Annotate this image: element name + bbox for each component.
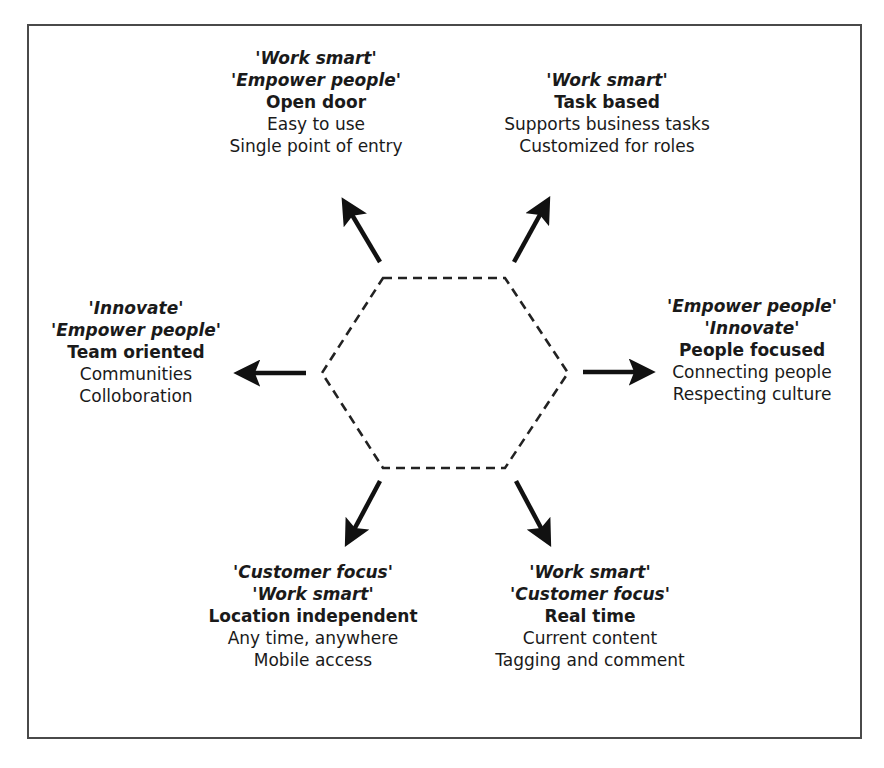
node-title: Real time <box>495 605 684 627</box>
node-value: 'Innovate' <box>51 297 221 319</box>
node-description: Communities <box>51 363 221 385</box>
arrow-up-left-icon <box>345 203 380 262</box>
arrow-up-right-icon <box>514 202 547 262</box>
node-title: People focused <box>667 339 837 361</box>
node-team-oriented: 'Innovate' 'Empower people' Team oriente… <box>51 297 221 407</box>
node-description: Connecting people <box>667 361 837 383</box>
node-value: 'Customer focus' <box>495 583 684 605</box>
node-title: Location independent <box>208 605 417 627</box>
node-value: 'Work smart' <box>495 561 684 583</box>
node-value: 'Work smart' <box>229 47 402 69</box>
node-value: 'Empower people' <box>229 69 402 91</box>
node-value: 'Empower people' <box>667 295 837 317</box>
node-task-based: 'Work smart' Task based Supports busines… <box>504 69 710 157</box>
arrow-down-right-icon <box>516 481 548 541</box>
node-description: Colloboration <box>51 385 221 407</box>
node-value: 'Empower people' <box>51 319 221 341</box>
node-value: 'Work smart' <box>504 69 710 91</box>
node-description: Supports business tasks <box>504 113 710 135</box>
node-real-time: 'Work smart' 'Customer focus' Real time … <box>495 561 684 671</box>
node-value: 'Customer focus' <box>208 561 417 583</box>
node-title: Task based <box>504 91 710 113</box>
node-value: 'Innovate' <box>667 317 837 339</box>
node-title: Open door <box>229 91 402 113</box>
node-title: Team oriented <box>51 341 221 363</box>
node-description: Mobile access <box>208 649 417 671</box>
node-description: Easy to use <box>229 113 402 135</box>
node-value: 'Work smart' <box>208 583 417 605</box>
node-description: Any time, anywhere <box>208 627 417 649</box>
node-open-door: 'Work smart' 'Empower people' Open door … <box>229 47 402 157</box>
node-description: Customized for roles <box>504 135 710 157</box>
node-location-independent: 'Customer focus' 'Work smart' Location i… <box>208 561 417 671</box>
node-description: Tagging and comment <box>495 649 684 671</box>
arrow-down-left-icon <box>348 481 380 541</box>
node-description: Single point of entry <box>229 135 402 157</box>
node-people-focused: 'Empower people' 'Innovate' People focus… <box>667 295 837 405</box>
center-hexagon <box>322 278 568 468</box>
node-description: Respecting culture <box>667 383 837 405</box>
node-description: Current content <box>495 627 684 649</box>
